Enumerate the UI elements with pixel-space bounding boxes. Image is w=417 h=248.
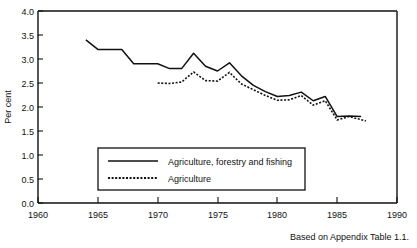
x-tick-label: 1990 bbox=[387, 210, 407, 220]
x-tick-label: 1980 bbox=[267, 210, 287, 220]
line-chart-svg: 4.0 3.5 3.0 2.5 2.0 1.5 1.0 0.5 0.0 1960… bbox=[0, 0, 417, 248]
y-tick-label: 2.5 bbox=[21, 79, 34, 89]
y-tick-label: 0.5 bbox=[21, 175, 34, 185]
x-tick-label: 1985 bbox=[327, 210, 347, 220]
y-tick-label: 3.5 bbox=[21, 31, 34, 41]
x-tick-label: 1975 bbox=[208, 210, 228, 220]
x-tick-label: 1970 bbox=[148, 210, 168, 220]
y-tick-label: 4.0 bbox=[21, 7, 34, 17]
legend-label-1: Agriculture bbox=[168, 174, 211, 184]
legend-label-0: Agriculture, forestry and fishing bbox=[168, 157, 292, 167]
y-tick-label: 3.0 bbox=[21, 55, 34, 65]
x-tick-label: 1965 bbox=[88, 210, 108, 220]
y-tick-label: 1.5 bbox=[21, 127, 34, 137]
legend-box bbox=[98, 148, 305, 190]
y-axis-title: Per cent bbox=[3, 90, 13, 124]
y-tick-labels: 4.0 3.5 3.0 2.5 2.0 1.5 1.0 0.5 0.0 bbox=[21, 7, 34, 209]
source-note: Based on Appendix Table 1.1. bbox=[290, 232, 409, 242]
legend[interactable]: Agriculture, forestry and fishing Agricu… bbox=[98, 148, 305, 190]
x-tick-label: 1960 bbox=[28, 210, 48, 220]
y-tick-label: 1.0 bbox=[21, 151, 34, 161]
y-tick-label: 2.0 bbox=[21, 103, 34, 113]
chart-figure: 4.0 3.5 3.0 2.5 2.0 1.5 1.0 0.5 0.0 1960… bbox=[0, 0, 417, 248]
y-tick-label: 0.0 bbox=[21, 199, 34, 209]
